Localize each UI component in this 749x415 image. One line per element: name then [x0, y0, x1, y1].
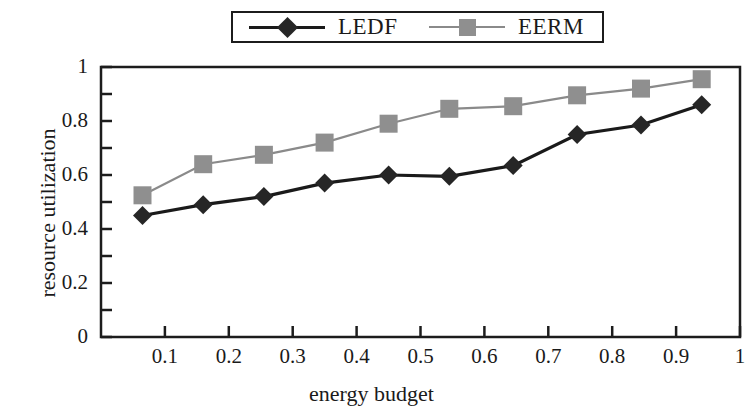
data-series-layer	[133, 70, 711, 225]
data-point-ledf	[254, 187, 273, 206]
x-tick-label: 0.7	[518, 344, 578, 369]
x-tick-label: 0.3	[263, 344, 323, 369]
x-tick-label: 0.5	[391, 344, 451, 369]
x-tick-label: 0.4	[327, 344, 387, 369]
x-tick-label: 1	[710, 344, 749, 369]
data-point-eerm	[440, 100, 458, 118]
x-tick-label: 0.8	[582, 344, 642, 369]
data-point-ledf	[194, 195, 213, 214]
data-point-eerm	[316, 134, 334, 152]
data-point-eerm	[134, 186, 152, 204]
series-line-eerm	[143, 79, 702, 195]
data-point-ledf	[315, 174, 334, 193]
data-point-ledf	[133, 206, 152, 225]
y-axis-title: resource utilization	[35, 83, 61, 343]
data-point-eerm	[568, 86, 586, 104]
data-point-eerm	[504, 97, 522, 115]
data-point-eerm	[693, 70, 711, 88]
data-point-eerm	[255, 146, 273, 164]
x-tick-label: 0.9	[646, 344, 706, 369]
x-tick-label: 0.2	[199, 344, 259, 369]
x-tick-label: 0.1	[135, 344, 195, 369]
data-point-ledf	[440, 167, 459, 186]
data-point-ledf	[504, 156, 523, 175]
data-point-eerm	[380, 115, 398, 133]
data-point-ledf	[568, 125, 587, 144]
data-point-eerm	[194, 155, 212, 173]
data-point-ledf	[632, 116, 651, 135]
data-point-eerm	[632, 80, 650, 98]
x-tick-label: 0.6	[454, 344, 514, 369]
data-point-ledf	[379, 166, 398, 185]
y-tick-label: 1	[32, 56, 88, 77]
data-point-ledf	[692, 95, 711, 114]
x-axis-title: energy budget	[0, 381, 743, 407]
